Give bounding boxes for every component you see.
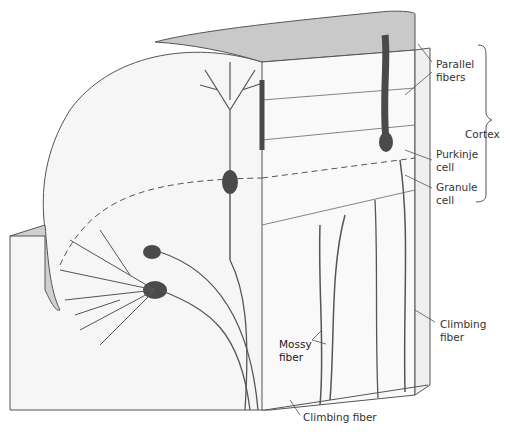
label-parallel-fibers: Parallel fibers xyxy=(436,58,474,84)
diagram-illustration xyxy=(0,0,510,435)
label-granule-cell: Granule cell xyxy=(436,181,478,207)
cortex-bracket xyxy=(476,45,492,202)
block-side-face xyxy=(415,48,430,395)
purkinje-column-right xyxy=(385,35,386,140)
label-cortex: Cortex xyxy=(465,128,500,141)
label-climbing-fiber-right: Climbing fiber xyxy=(440,318,486,344)
label-mossy-fiber: Mossy fiber xyxy=(279,338,312,364)
label-climbing-fiber-bottom: Climbing fiber xyxy=(303,411,377,424)
cerebellum-diagram: Parallel fibers Cortex Purkinje cell Gra… xyxy=(0,0,510,435)
label-purkinje-cell: Purkinje cell xyxy=(436,148,478,174)
